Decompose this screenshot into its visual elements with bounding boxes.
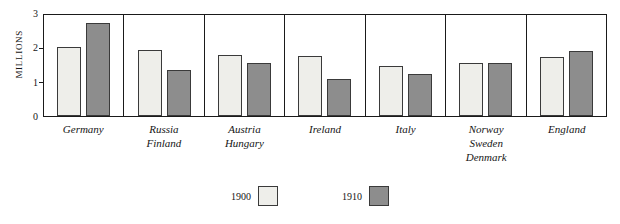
category-label: AustriaHungary	[204, 122, 285, 168]
bar-1900	[218, 55, 242, 116]
category-label: Germany	[43, 122, 124, 168]
plot-area	[43, 14, 607, 117]
bar-1910	[569, 51, 593, 116]
bar-1910	[86, 23, 110, 116]
bar-group	[446, 15, 526, 116]
bar-1900	[540, 57, 564, 116]
bar-1900	[379, 66, 403, 116]
bar-1910	[167, 70, 191, 116]
category-label: NorwaySwedenDenmark	[446, 122, 527, 168]
category-label-line: Ireland	[285, 122, 366, 136]
category-label-line: Finland	[124, 136, 205, 150]
category-label: Italy	[365, 122, 446, 168]
category-label-line: Norway	[446, 122, 527, 136]
bar-chart: Millions 3 2 1 0 GermanyRussiaFinlandAus…	[0, 0, 620, 224]
legend-item-1900: 1900	[231, 186, 278, 206]
category-label-line: Sweden	[446, 136, 527, 150]
bar-group	[124, 15, 204, 116]
category-labels: GermanyRussiaFinlandAustriaHungaryIrelan…	[43, 122, 607, 168]
y-tick-1: 1	[24, 78, 38, 88]
y-tick-3: 3	[24, 9, 38, 19]
category-label-line: Russia	[124, 122, 205, 136]
bar-group	[44, 15, 124, 116]
chart-legend: 1900 1910	[0, 186, 620, 206]
bar-1900	[57, 47, 81, 116]
bar-group	[527, 15, 606, 116]
legend-label-1910: 1910	[342, 191, 362, 202]
category-label-line: Austria	[204, 122, 285, 136]
bar-group	[285, 15, 365, 116]
bar-1910	[247, 63, 271, 116]
category-label: RussiaFinland	[124, 122, 205, 168]
bar-group	[205, 15, 285, 116]
bar-1900	[298, 56, 322, 116]
category-label-line: Italy	[365, 122, 446, 136]
y-tick-0: 0	[24, 112, 38, 122]
category-label-line: Hungary	[204, 136, 285, 150]
category-label-line: England	[526, 122, 607, 136]
bar-1900	[138, 50, 162, 116]
legend-swatch-1900	[258, 186, 278, 206]
category-label: England	[526, 122, 607, 168]
y-tick-2: 2	[24, 43, 38, 53]
category-label-line: Denmark	[446, 150, 527, 164]
legend-label-1900: 1900	[231, 191, 251, 202]
category-label-line: Germany	[43, 122, 124, 136]
bar-1910	[327, 79, 351, 116]
bar-1910	[488, 63, 512, 116]
bar-groups	[44, 15, 606, 116]
legend-swatch-1910	[369, 186, 389, 206]
category-label: Ireland	[285, 122, 366, 168]
legend-item-1910: 1910	[342, 186, 389, 206]
bar-1900	[459, 63, 483, 116]
bar-group	[366, 15, 446, 116]
bar-1910	[408, 74, 432, 116]
